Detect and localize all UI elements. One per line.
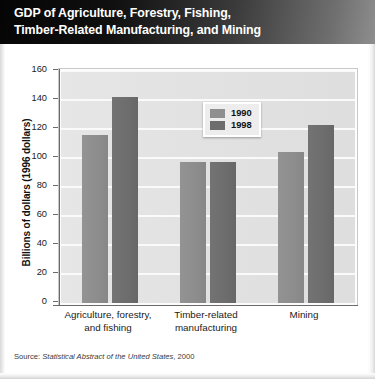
y-tick-label: 120: [7, 122, 47, 132]
y-tick-label: 60: [7, 209, 47, 219]
source-note: Source: Statistical Abstract of the Unit…: [14, 352, 194, 361]
source-publication: Statistical Abstract of the United State…: [42, 352, 173, 361]
y-axis-line: [59, 69, 60, 306]
gridline: [61, 71, 355, 72]
legend-item-1998: 1998: [210, 120, 252, 131]
page-edge-right: [368, 44, 375, 379]
bar-1990-1: [82, 135, 108, 303]
bar-1990-2: [180, 162, 206, 303]
chart-card: GDP of Agriculture, Forestry, Fishing, T…: [0, 0, 375, 379]
legend-swatch-1998: [210, 121, 225, 130]
chart-area: Billions of dollars (1996 dollars) 02040…: [7, 47, 368, 347]
legend-label-1998: 1998: [231, 121, 252, 130]
y-tick-label: 100: [7, 151, 47, 161]
chart-legend: 1990 1998: [203, 102, 261, 137]
gridline: [61, 99, 355, 101]
y-tick-label: 20: [7, 267, 47, 277]
chart-header-banner: GDP of Agriculture, Forestry, Fishing, T…: [0, 0, 375, 44]
legend-label-1990: 1990: [231, 109, 252, 118]
y-tick-label: 40: [7, 238, 47, 248]
bar-1998-3: [308, 125, 334, 303]
chart-title: GDP of Agriculture, Forestry, Fishing, T…: [14, 5, 354, 38]
source-prefix: Source:: [14, 352, 40, 361]
legend-item-1990: 1990: [210, 108, 252, 119]
x-category-label: Mining: [244, 309, 364, 322]
page-edge-bottom: [0, 373, 375, 379]
source-year: , 2000: [173, 352, 194, 361]
y-tick-label: 80: [7, 180, 47, 190]
bar-1998-2: [210, 162, 236, 303]
legend-swatch-1990: [210, 109, 225, 118]
y-tick-label: 160: [7, 64, 47, 74]
bar-1990-3: [278, 152, 304, 303]
y-axis-title: Billions of dollars (1996 dollars): [21, 88, 32, 298]
page-edge-left: [0, 44, 5, 379]
y-tick-label: 140: [7, 93, 47, 103]
x-axis-line: [53, 305, 358, 306]
bar-1998-1: [112, 97, 138, 303]
y-tick-label: 0: [7, 296, 47, 306]
